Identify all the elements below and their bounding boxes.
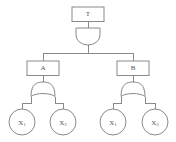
basic-event-3[interactable]: X1 [100, 109, 126, 135]
or-gate-icon[interactable] [31, 82, 55, 97]
basic-event-2[interactable]: X2 [50, 109, 76, 135]
or-gate-icon[interactable] [121, 82, 145, 97]
or-gate-a[interactable] [31, 82, 55, 97]
fault-tree-diagram: T A B X1 [0, 0, 176, 142]
edge-or-b-to-leaf-4 [145, 97, 155, 110]
edge-or-b-to-leaf-3 [113, 97, 121, 110]
node-event-a[interactable]: A [27, 61, 59, 76]
top-event-label: T [86, 10, 91, 18]
node-top-event[interactable]: T [72, 7, 104, 22]
fault-tree-canvas: T A B X1 [0, 0, 176, 142]
and-gate-icon[interactable] [76, 28, 100, 45]
basic-event-4[interactable]: X2 [142, 109, 168, 135]
and-gate-top[interactable] [76, 28, 100, 45]
edge-or-a-to-leaf-1 [22, 97, 31, 110]
edge-or-a-to-leaf-2 [55, 97, 63, 110]
basic-event-1[interactable]: X1 [9, 109, 35, 135]
node-event-b[interactable]: B [117, 61, 149, 76]
or-gate-b[interactable] [121, 82, 145, 97]
event-b-label: B [131, 64, 136, 72]
event-a-label: A [40, 64, 45, 72]
